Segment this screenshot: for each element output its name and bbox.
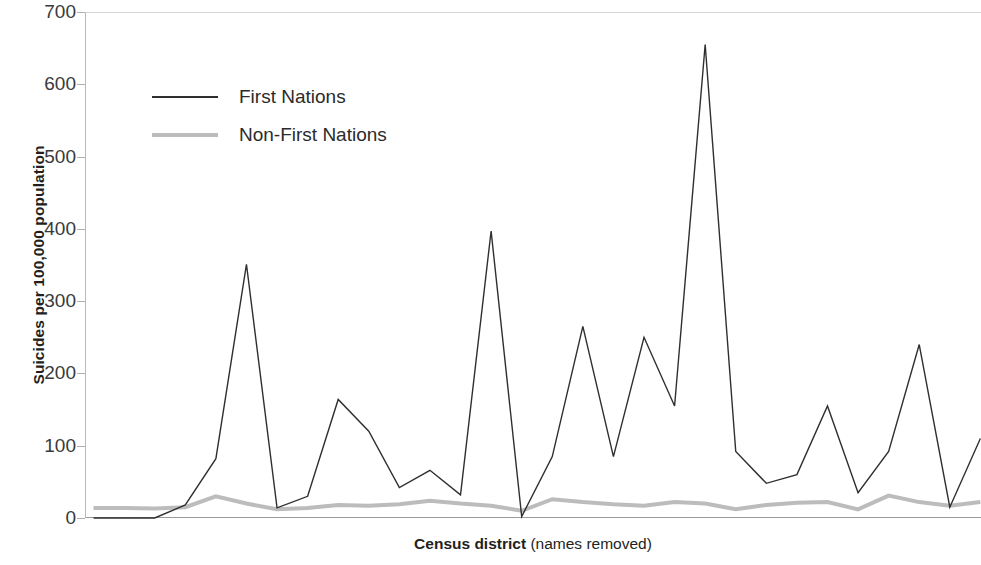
legend-swatch-non-first-nations [152,133,218,137]
legend-swatch-first-nations [152,96,218,98]
y-axis-tick-mark [77,84,85,85]
y-axis-tick-mark [77,446,85,447]
chart-figure: Suicides per 100,000 population 70060050… [0,0,981,565]
y-axis-tick-mark [77,373,85,374]
chart-legend: First NationsNon-First Nations [152,78,452,154]
y-axis-tick-label: 0 [32,508,76,527]
legend-label: First Nations [239,86,346,108]
y-axis-tick-label: 700 [32,2,76,21]
y-axis-tick-mark [77,229,85,230]
y-axis-tick-label: 400 [32,219,76,238]
y-axis-tick-label: 100 [32,436,76,455]
x-axis-title: Census district (names removed) [85,535,981,553]
y-axis-tick-labels: 7006005004003002001000 [28,0,76,565]
x-axis-title-plain: (names removed) [530,535,651,552]
y-axis-tick-mark [77,301,85,302]
x-axis-title-bold: Census district [414,535,526,552]
y-axis-tick-mark [77,518,85,519]
legend-item-non-first-nations: Non-First Nations [152,116,452,154]
legend-label: Non-First Nations [239,124,387,146]
y-axis-tick-label: 300 [32,291,76,310]
y-axis-tick-mark [77,157,85,158]
y-axis-tick-label: 200 [32,363,76,382]
legend-item-first-nations: First Nations [152,78,452,116]
y-axis-tick-label: 600 [32,74,76,93]
y-axis-tick-label: 500 [32,147,76,166]
y-axis-tick-mark [77,12,85,13]
